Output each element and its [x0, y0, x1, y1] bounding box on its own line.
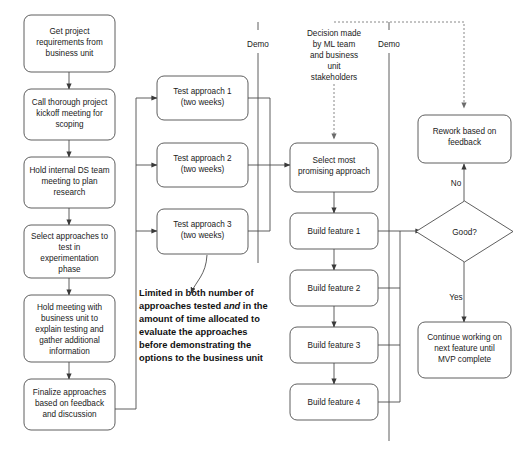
node-finalize-approaches-line-0: Finalize approaches	[33, 388, 106, 397]
node-build-feature-2[interactable]: Build feature 2	[290, 270, 378, 306]
edge-label-yes: Yes	[449, 293, 462, 302]
node-internal-ds-meeting[interactable]: Hold internal DS team meeting to plan re…	[24, 157, 115, 208]
node-internal-ds-meeting-line-0: Hold internal DS team	[29, 166, 109, 175]
node-good-decision[interactable]: Good?	[416, 201, 513, 262]
demo-lifeline-left-group: Demo	[247, 22, 269, 263]
node-continue-working-line-0: Continue working on	[427, 333, 502, 342]
builds-to-good-connectors	[378, 231, 421, 402]
node-select-approaches-line-0: Select approaches to	[31, 232, 108, 241]
callout-line-0: Limited in both number of	[139, 288, 255, 298]
node-build-feature-1-line-0: Build feature 1	[308, 227, 361, 236]
node-rework-feedback-line-1: feedback	[448, 138, 482, 147]
decision-made-note: Decision made by ML team and business un…	[307, 29, 362, 82]
flowchart-canvas: Demo Demo	[0, 0, 527, 452]
node-select-approaches[interactable]: Select approaches to test in experimenta…	[24, 225, 115, 278]
node-rework-feedback-line-0: Rework based on	[433, 127, 497, 136]
node-test-approach-1-line-1: (two weeks)	[181, 98, 225, 107]
decision-note-line-0: Decision made	[307, 29, 362, 38]
demo-right-label: Demo	[378, 40, 400, 49]
callout-line-2: amount of time allocated to	[139, 314, 260, 324]
node-finalize-approaches-line-2: and discussion	[42, 410, 97, 419]
demo-lifeline-right-group: Demo	[378, 22, 400, 441]
callout-line-3: evaluate the approaches	[139, 327, 248, 337]
callout-line-5: options to the business unit	[139, 353, 263, 363]
callout-line-1: approaches tested and in the	[139, 301, 268, 311]
node-business-unit-meeting-line-0: Hold meeting with	[37, 303, 103, 312]
node-kickoff-meeting-line-0: Call thorough project	[32, 98, 108, 107]
node-finalize-approaches-line-1: based on feedback	[35, 399, 105, 408]
decision-note-line-3: unit	[327, 62, 341, 71]
node-test-approach-2-line-1: (two weeks)	[181, 165, 225, 174]
node-kickoff-meeting-line-2: scoping	[55, 120, 84, 129]
node-select-approaches-line-3: phase	[58, 265, 81, 274]
decision-note-line-2: and business	[310, 51, 358, 60]
node-test-approach-2[interactable]: Test approach 2 (two weeks)	[157, 143, 248, 187]
limited-scope-callout: Limited in both number of approaches tes…	[139, 288, 268, 363]
node-business-unit-meeting-line-2: explain testing and	[35, 325, 104, 334]
node-test-approach-2-line-0: Test approach 2	[173, 154, 232, 163]
node-select-most-promising-line-0: Select most	[313, 156, 356, 165]
node-build-feature-4[interactable]: Build feature 4	[290, 384, 378, 420]
node-get-requirements-line-2: business unit	[46, 49, 95, 58]
node-kickoff-meeting[interactable]: Call thorough project kickoff meeting fo…	[24, 89, 115, 140]
node-good-decision-label: Good?	[452, 228, 477, 237]
node-select-most-promising-line-1: promising approach	[298, 167, 370, 176]
decision-note-line-4: stakeholders	[311, 73, 357, 82]
node-get-requirements-line-0: Get project	[49, 27, 90, 36]
node-test-approach-3[interactable]: Test approach 3 (two weeks)	[157, 209, 248, 254]
node-internal-ds-meeting-line-2: research	[54, 188, 86, 197]
node-build-feature-2-line-0: Build feature 2	[308, 284, 361, 293]
tests-to-select-connectors	[248, 98, 290, 231]
node-build-feature-1[interactable]: Build feature 1	[290, 213, 378, 249]
node-select-approaches-line-2: experimentation	[40, 254, 99, 263]
callout-line-4: before demonstrating the	[139, 340, 251, 350]
decision-note-line-1: by ML team	[313, 40, 356, 49]
conn-test1-merge	[248, 98, 270, 165]
node-continue-working-line-1: next feature until	[434, 344, 495, 353]
node-test-approach-3-line-1: (two weeks)	[181, 231, 225, 240]
node-rework-feedback[interactable]: Rework based on feedback	[418, 115, 511, 163]
node-business-unit-meeting-line-1: business unit to	[41, 314, 98, 323]
node-test-approach-3-line-0: Test approach 3	[173, 220, 232, 229]
edge-label-no: No	[451, 179, 462, 188]
node-get-requirements[interactable]: Get project requirements from business u…	[24, 15, 115, 72]
node-business-unit-meeting-line-3: gather additional	[39, 336, 100, 345]
conn-finalize-riser	[115, 98, 136, 409]
node-build-feature-3[interactable]: Build feature 3	[290, 327, 378, 363]
node-continue-working[interactable]: Continue working on next feature until M…	[418, 322, 511, 378]
node-continue-working-line-2: MVP complete	[438, 355, 492, 364]
node-select-most-promising[interactable]: Select most promising approach	[290, 143, 378, 192]
node-build-feature-4-line-0: Build feature 4	[308, 398, 361, 407]
node-kickoff-meeting-line-1: kickoff meeting for	[36, 109, 103, 118]
conn-test3-merge	[248, 165, 270, 231]
node-test-approach-1-line-0: Test approach 1	[173, 87, 232, 96]
node-business-unit-meeting-line-4: information	[49, 347, 90, 356]
node-get-requirements-line-1: requirements from	[36, 38, 103, 47]
node-business-unit-meeting[interactable]: Hold meeting with business unit to expla…	[24, 295, 115, 362]
node-test-approach-1[interactable]: Test approach 1 (two weeks)	[157, 76, 248, 120]
node-internal-ds-meeting-line-1: meeting to plan	[42, 177, 98, 186]
node-select-approaches-line-1: test in	[59, 243, 81, 252]
demo-left-label: Demo	[247, 40, 269, 49]
node-build-feature-3-line-0: Build feature 3	[308, 341, 361, 350]
node-finalize-approaches[interactable]: Finalize approaches based on feedback an…	[24, 379, 115, 430]
